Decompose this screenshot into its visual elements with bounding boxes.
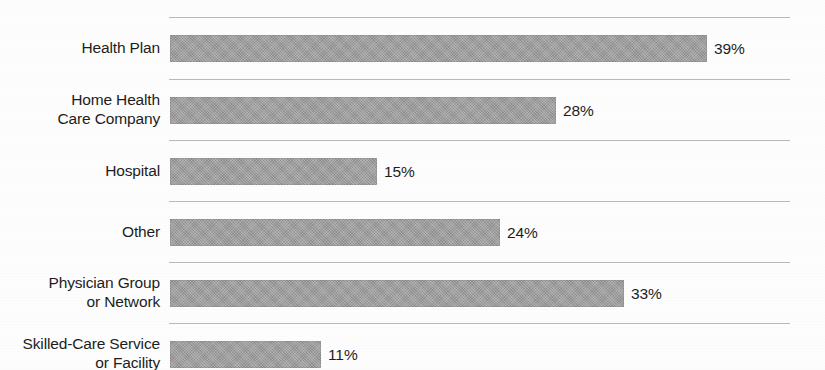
- bar: [170, 341, 321, 368]
- bar-value-label: 33%: [631, 284, 662, 303]
- horizontal-bar-chart: Health Plan 39% Home Health Care Company…: [0, 0, 825, 370]
- bar-row: Health Plan 39%: [0, 17, 825, 78]
- category-label: Hospital: [0, 161, 160, 180]
- category-label: Skilled-Care Service or Facility: [0, 334, 160, 370]
- bar-track: 11%: [170, 341, 791, 368]
- bar-value-label: 24%: [507, 223, 538, 242]
- category-label: Health Plan: [0, 38, 160, 57]
- bar-track: 39%: [170, 35, 791, 62]
- bar-track: 24%: [170, 219, 791, 246]
- bar-value-label: 15%: [384, 162, 415, 181]
- category-label: Physician Group or Network: [0, 273, 160, 311]
- bar-row: Other 24%: [0, 201, 825, 262]
- bar: [170, 35, 707, 62]
- bar: [170, 280, 624, 307]
- bar-track: 28%: [170, 97, 791, 124]
- bar-value-label: 11%: [328, 345, 358, 364]
- bar-row: Skilled-Care Service or Facility 11%: [0, 323, 825, 370]
- category-label: Other: [0, 222, 160, 241]
- bar: [170, 97, 556, 124]
- bar-value-label: 28%: [563, 101, 594, 120]
- bar: [170, 158, 377, 185]
- bar: [170, 219, 500, 246]
- bar-track: 33%: [170, 280, 791, 307]
- bar-row: Home Health Care Company 28%: [0, 79, 825, 140]
- plot-area: Health Plan 39% Home Health Care Company…: [0, 0, 825, 370]
- bar-row: Hospital 15%: [0, 140, 825, 201]
- bar-track: 15%: [170, 158, 791, 185]
- bar-value-label: 39%: [714, 39, 745, 58]
- category-label: Home Health Care Company: [0, 90, 160, 128]
- bar-row: Physician Group or Network 33%: [0, 262, 825, 323]
